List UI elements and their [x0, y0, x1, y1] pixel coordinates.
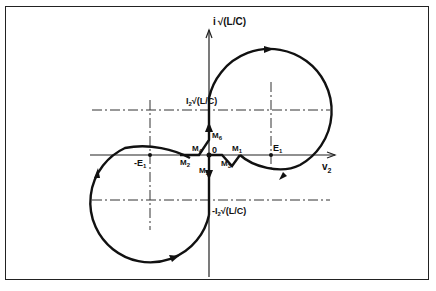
minus-e1-label: -E1 [134, 158, 147, 169]
labels: i√(L/C) v2 0 E1 -E1 M1 M2 M3 M4 M5 M6 I2… [134, 16, 332, 217]
upper-level-label: I2√(L/C) [186, 96, 217, 107]
m3-label: M3 [221, 159, 232, 169]
origin-point [207, 153, 212, 158]
x-axis-label: v2 [322, 161, 332, 174]
m4-label: M4 [192, 144, 203, 154]
y-axis-label: i√(L/C) [213, 16, 246, 27]
e1-label: E1 [273, 143, 283, 154]
arrow-top-icon [264, 46, 274, 53]
arrow-bottom-icon [169, 255, 179, 262]
minus-e1-point [148, 153, 152, 157]
origin-label: 0 [212, 145, 217, 155]
arrow-right-bottom-icon [279, 172, 287, 180]
phase-plane-diagram: i√(L/C) v2 0 E1 -E1 M1 M2 M3 M4 M5 M6 I2… [0, 0, 436, 291]
m1-label: M1 [232, 144, 243, 154]
lower-level-label: -I2√(L/C) [212, 206, 246, 217]
m2-label: M2 [180, 158, 191, 168]
e1-point [269, 153, 273, 157]
right-circle-trajectory [209, 49, 332, 169]
m6-label: M6 [212, 131, 223, 141]
